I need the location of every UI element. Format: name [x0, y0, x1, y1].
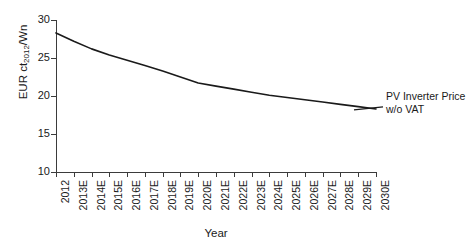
chart-figure: 1015202530 20122013E2014E2015E2016E2017E… [0, 0, 471, 247]
plot-area [0, 0, 471, 247]
series-annotation-line-1: PV Inverter Price [386, 90, 465, 103]
series-annotation-line-2: w/o VAT [386, 103, 465, 116]
series-annotation: PV Inverter Price w/o VAT [386, 90, 465, 116]
series-line-pv-inverter-price [56, 33, 376, 109]
